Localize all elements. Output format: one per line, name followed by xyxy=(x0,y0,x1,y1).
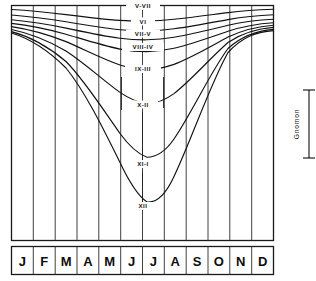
month-label-apr: A xyxy=(83,254,93,269)
month-label-mar: M xyxy=(61,254,72,269)
month-label-jul: J xyxy=(150,254,157,269)
canvas-background xyxy=(0,0,316,281)
curve-label-xi-i: XI-I xyxy=(137,160,149,167)
gnomon-axis-label: Gnomon xyxy=(293,109,300,140)
curve-label-viii-iv: VIII-IV xyxy=(133,43,154,50)
month-label-jan: J xyxy=(19,254,26,269)
month-label-sep: S xyxy=(193,254,202,269)
month-label-nov: N xyxy=(236,254,245,269)
curve-label-ix-iii: IX-III xyxy=(135,65,151,72)
curve-label-xii: XII xyxy=(138,202,147,209)
month-label-dec: D xyxy=(258,254,267,269)
month-label-jun: J xyxy=(128,254,135,269)
chart-svg: V-VII VI VII-V VIII-IV IX-III X-II XI-I … xyxy=(0,0,316,281)
curve-label-x-ii: X-II xyxy=(137,101,149,108)
month-label-oct: O xyxy=(214,254,224,269)
curve-label-vi: VI xyxy=(140,18,147,25)
curve-label-v-vii: V-VII xyxy=(135,2,151,9)
month-label-feb: F xyxy=(40,254,48,269)
curve-label-vii-v: VII-V xyxy=(135,30,152,37)
month-label-may: M xyxy=(104,254,115,269)
month-label-aug: A xyxy=(171,254,181,269)
gnomon-shadow-chart: V-VII VI VII-V VIII-IV IX-III X-II XI-I … xyxy=(0,0,316,281)
